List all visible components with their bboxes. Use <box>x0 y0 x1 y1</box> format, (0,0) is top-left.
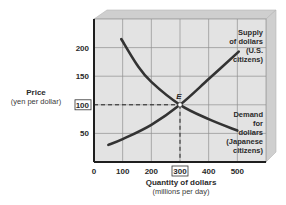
y-tick-label: 100 <box>76 101 90 110</box>
x-tick-label: 300 <box>173 167 187 176</box>
x-axis-sublabel: (millions per day) <box>152 187 210 196</box>
curve-label-line: Demand <box>233 110 263 119</box>
curve-label-line: (Japanese <box>226 137 263 146</box>
y-tick-label: 50 <box>80 129 89 138</box>
y-axis-sublabel: (yen per dollar) <box>11 97 62 106</box>
y-tick-label: 200 <box>76 44 90 53</box>
equilibrium-point <box>178 103 182 107</box>
equilibrium-label: E <box>176 92 182 101</box>
curve-label-line: Supply <box>238 28 264 37</box>
curve-label-line: dollars <box>238 128 263 137</box>
x-tick-label: 0 <box>92 167 97 176</box>
x-tick-label: 400 <box>202 167 216 176</box>
top-bevel <box>94 10 276 19</box>
y-axis-label: Price <box>26 88 46 97</box>
x-tick-label: 100 <box>116 167 130 176</box>
x-tick-label: 500 <box>231 167 245 176</box>
curve-label-line: for <box>253 119 263 128</box>
curve-label-line: citizens) <box>233 55 264 64</box>
curve-label-line: citizens) <box>233 146 264 155</box>
curve-label-line: (U.S. <box>246 46 263 55</box>
curve-label-line: of dollars <box>229 37 263 46</box>
right-bevel <box>266 10 276 162</box>
x-axis-label: Quantity of dollars <box>146 178 217 187</box>
y-tick-label: 150 <box>76 72 90 81</box>
exchange-rate-chart: E 010020030040050050100150200 Price (yen… <box>0 0 286 205</box>
x-tick-label: 200 <box>145 167 159 176</box>
